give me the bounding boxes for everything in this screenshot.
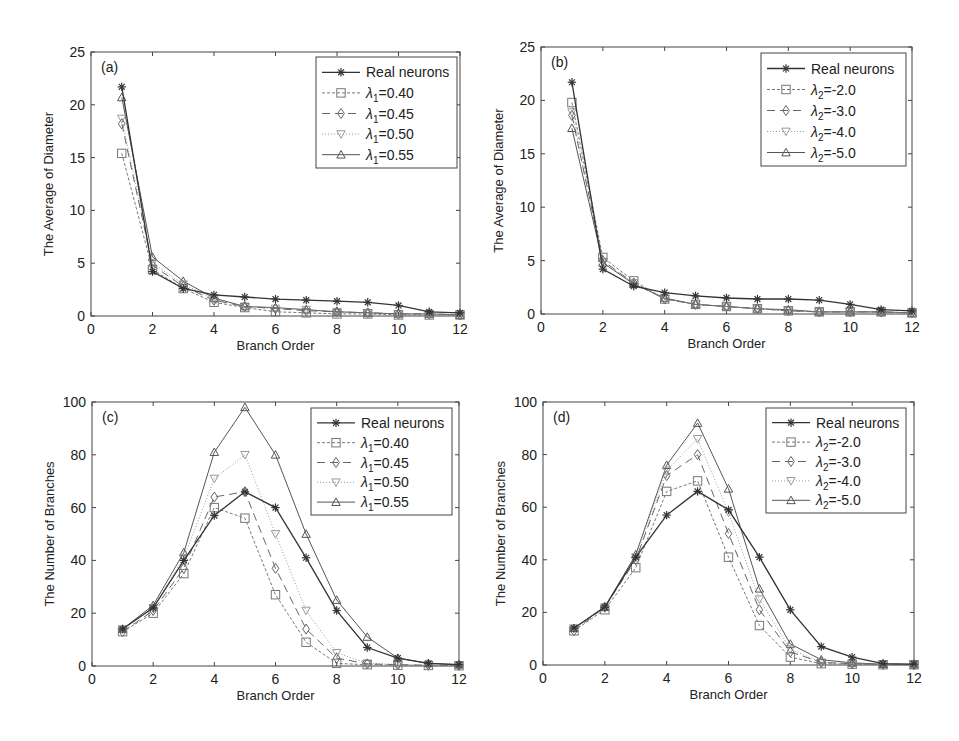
series-line [122,153,460,315]
point-marker [879,659,887,667]
point-marker [456,309,464,317]
y-tick-label: 5 [527,253,535,269]
point-marker [241,488,249,496]
legend-marker [332,419,340,427]
x-tick-label: 2 [149,321,157,337]
subplot-d: 024681012020406080100Branch OrderThe Num… [493,394,922,702]
point-marker [148,267,156,275]
legend: Real neuronsλ1=0.40λ1=0.45λ1=0.50λ1=0.55 [316,57,457,168]
subplot-b: 0246810120510152025Branch OrderThe Avera… [491,39,920,351]
point-marker [333,297,341,305]
point-marker [332,606,340,614]
y-tick-label: 15 [519,146,535,162]
x-axis-label: Branch Order [236,688,315,703]
legend: Real neuronsλ1=0.40λ1=0.45λ1=0.50λ1=0.55 [311,408,452,515]
y-tick-label: 25 [519,39,535,55]
point-marker [271,503,279,511]
point-marker [118,625,126,633]
subplot-a: 0246810120510152025Branch OrderThe Avera… [41,44,468,353]
point-marker [302,554,310,562]
x-tick-label: 10 [391,321,407,337]
point-marker [755,553,763,561]
series-line [123,508,459,666]
point-marker [725,528,732,538]
y-axis-label: The Number of Branches [493,460,508,606]
y-tick-label: 20 [69,97,85,113]
point-marker [271,295,279,303]
y-tick-label: 0 [527,306,535,322]
point-marker [180,556,188,564]
legend-entry-label: Real neurons [816,415,899,431]
y-tick-label: 40 [521,552,537,568]
point-marker [118,149,126,157]
point-marker [599,265,607,273]
x-tick-label: 12 [906,670,922,686]
y-tick-label: 5 [77,255,85,271]
point-marker [815,296,823,304]
series-sim-1 [118,149,465,319]
point-marker [303,624,310,634]
x-tick-label: 0 [539,670,547,686]
panel-label: (c) [102,409,118,425]
point-marker [241,293,249,301]
figure-canvas: 0246810120510152025Branch OrderThe Avera… [0,0,959,741]
series-line [123,492,459,666]
x-tick-label: 8 [333,321,341,337]
y-axis-label: The Number of Branches [42,461,57,607]
x-tick-label: 4 [210,671,218,687]
y-tick-label: 20 [70,605,86,621]
y-tick-label: 0 [77,308,85,324]
point-marker [568,78,576,86]
point-marker [908,307,916,315]
x-tick-label: 2 [149,671,157,687]
point-marker [817,642,825,650]
x-axis-label: Branch Order [689,687,768,702]
y-tick-label: 15 [69,150,85,166]
legend: Real neuronsλ2=-2.0λ2=-3.0λ2=-4.0λ2=-5.0 [766,408,906,513]
point-marker [632,553,640,561]
x-tick-label: 2 [601,670,609,686]
point-marker [570,624,578,632]
point-marker [179,284,187,292]
point-marker [271,591,279,599]
figure: 0246810120510152025Branch OrderThe Avera… [0,0,959,741]
x-tick-label: 8 [333,671,341,687]
point-marker [693,477,701,485]
x-tick-label: 10 [842,319,858,335]
y-tick-label: 80 [521,447,537,463]
y-tick-label: 25 [69,44,85,60]
point-marker [210,291,218,299]
x-tick-label: 8 [786,670,794,686]
y-tick-label: 10 [69,202,85,218]
point-marker [846,300,854,308]
y-tick-label: 40 [70,552,86,568]
x-tick-label: 0 [537,319,545,335]
point-marker [753,295,761,303]
y-tick-label: 80 [70,447,86,463]
y-axis-label: The Average of Diameter [41,111,56,256]
point-marker [630,282,638,290]
point-marker [455,660,463,668]
legend-entry-label: Real neurons [366,64,449,80]
y-tick-label: 20 [521,604,537,620]
legend-marker [782,64,790,72]
x-tick-label: 4 [661,319,669,335]
x-tick-label: 6 [272,321,280,337]
x-tick-label: 6 [725,670,733,686]
y-tick-label: 60 [70,500,86,516]
y-tick-label: 10 [519,199,535,215]
point-marker [722,294,730,302]
point-marker [660,288,668,296]
legend-marker [337,68,345,76]
x-tick-label: 6 [272,671,280,687]
series-line [574,491,914,664]
y-axis-label: The Average of Diameter [491,108,506,253]
point-marker [425,308,433,316]
x-tick-label: 12 [904,319,920,335]
x-tick-label: 0 [88,671,96,687]
point-marker [877,306,885,314]
x-tick-label: 2 [599,319,607,335]
x-tick-label: 8 [784,319,792,335]
point-marker [118,83,126,91]
y-tick-label: 20 [519,92,535,108]
